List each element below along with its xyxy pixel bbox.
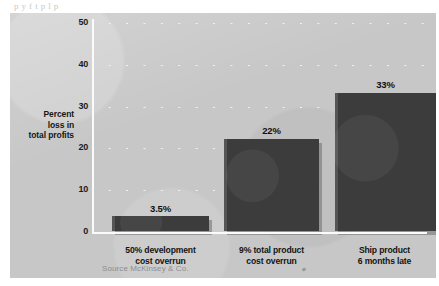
category-label-3-line-1: Ship product [329, 245, 436, 256]
category-label-2: 9% total product cost overrun [216, 245, 327, 266]
y-axis-title-line-2: loss in [12, 120, 74, 131]
y-axis-title-line-3: total profits [12, 130, 74, 141]
y-tick-10: 10 [18, 185, 88, 194]
y-tick-20: 20 [18, 143, 88, 152]
chart-figure: 3.5% 22% 33% 50 40 30 20 10 0 Percent lo… [10, 13, 436, 278]
source-note: Source McKinsey & Co. [102, 264, 189, 273]
y-axis-title: Percent loss in total profits [12, 109, 74, 141]
x-axis-line [92, 232, 427, 234]
y-tick-0: 0 [18, 227, 88, 236]
category-label-3: Ship product 6 months late [329, 245, 436, 266]
scan-text-artifact: p y f t p l p [0, 0, 439, 12]
category-label-1-line-1: 50% development [104, 245, 217, 256]
bar-value-2: 22% [224, 125, 319, 136]
y-tick-40: 40 [18, 60, 88, 69]
category-label-2-line-1: 9% total product [216, 245, 327, 256]
plot-area: 3.5% 22% 33% [94, 22, 425, 231]
category-label-2-line-2: cost overrun [216, 256, 327, 267]
bar-1[interactable] [112, 216, 209, 231]
bar-2[interactable] [224, 139, 319, 231]
bar-slot-2: 22% [224, 22, 319, 231]
bar-slot-1: 3.5% [112, 22, 209, 231]
y-axis-title-line-1: Percent [12, 109, 74, 120]
category-label-1: 50% development cost overrun [104, 245, 217, 266]
bar-value-1: 3.5% [112, 203, 209, 214]
y-tick-50: 50 [18, 18, 88, 27]
category-label-3-line-2: 6 months late [329, 256, 436, 267]
bar-3[interactable] [335, 93, 436, 231]
y-axis-line [92, 19, 94, 234]
bar-slot-3: 33% [335, 22, 436, 231]
bar-value-3: 33% [335, 79, 436, 90]
